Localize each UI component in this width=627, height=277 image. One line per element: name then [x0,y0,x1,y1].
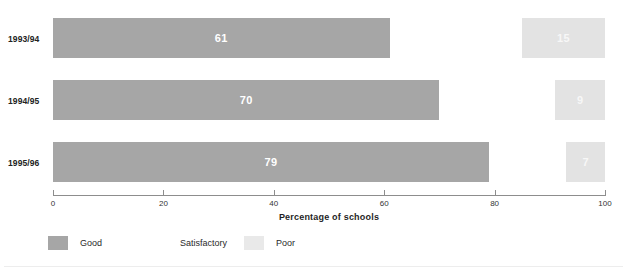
legend-item-satisfactory[interactable]: Satisfactory [148,234,227,252]
bar-good-1994-95[interactable]: 70 [53,80,439,120]
x-axis-tick-100 [605,190,606,196]
x-axis-label-60: 60 [380,199,389,208]
bar-good-1995-96[interactable]: 79 [53,142,489,182]
bar-value-good-1994-95: 70 [240,95,253,106]
bar-good-1993-94[interactable]: 61 [53,18,390,58]
stacked-bar-chart: 1993/94 1994/95 1995/96 61 15 70 9 [0,0,627,277]
legend-swatch-satisfactory-icon [148,236,168,250]
x-axis-title: Percentage of schools [53,212,605,222]
bar-value-good-1993-94: 61 [215,33,228,44]
legend-label-satisfactory: Satisfactory [180,238,227,248]
category-label-1993-94: 1993/94 [8,34,50,44]
x-axis-label-40: 40 [269,199,278,208]
bar-value-poor-1993-94: 15 [557,33,570,44]
bar-row-1994-95: 70 9 [53,80,605,120]
bar-row-1995-96: 79 7 [53,142,605,182]
bottom-divider [4,266,623,267]
x-axis-tick-80 [495,190,496,196]
bar-poor-1995-96[interactable]: 7 [566,142,605,182]
x-axis-tick-60 [384,190,385,196]
x-axis-tick-40 [274,190,275,196]
legend-swatch-good-icon [48,236,68,250]
legend-label-poor: Poor [276,238,295,248]
bar-satisfactory-1993-94[interactable] [390,18,522,58]
category-label-1995-96: 1995/96 [8,158,50,168]
x-axis-label-100: 100 [598,199,611,208]
bar-poor-1993-94[interactable]: 15 [522,18,605,58]
bar-satisfactory-1994-95[interactable] [439,80,555,120]
x-axis-tick-0 [53,190,54,196]
x-axis-label-80: 80 [490,199,499,208]
legend-swatch-poor-icon [244,236,264,250]
legend-item-poor[interactable]: Poor [244,234,295,252]
x-axis-line [53,195,605,196]
bar-value-good-1995-96: 79 [265,157,278,168]
x-axis-label-20: 20 [159,199,168,208]
bar-value-poor-1994-95: 9 [577,95,584,106]
bar-row-1993-94: 61 15 [53,18,605,58]
x-axis-tick-20 [163,190,164,196]
legend-item-good[interactable]: Good [48,234,102,252]
bar-poor-1994-95[interactable]: 9 [555,80,605,120]
category-label-1994-95: 1994/95 [8,96,50,106]
legend-label-good: Good [80,238,102,248]
plot-area: 61 15 70 9 79 7 [53,0,605,195]
x-axis-label-0: 0 [51,199,55,208]
bar-satisfactory-1995-96[interactable] [489,142,566,182]
bar-value-poor-1995-96: 7 [582,157,589,168]
